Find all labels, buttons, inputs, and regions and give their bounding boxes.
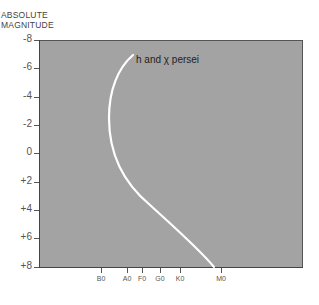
cluster-sequence-curve [0,0,319,305]
curve-annotation: h and χ persei [136,54,199,65]
